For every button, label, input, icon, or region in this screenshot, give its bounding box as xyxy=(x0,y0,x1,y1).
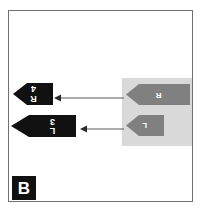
connector-arrow-bottom xyxy=(80,120,124,130)
grey-arrow-r xyxy=(126,84,190,105)
figure-panel: R L R 4 L 3 xyxy=(0,0,204,214)
black-arrow-3l xyxy=(11,115,76,137)
panel-label-b: B xyxy=(12,176,36,200)
connector-arrow-top xyxy=(54,89,124,99)
black-arrow-r4 xyxy=(13,83,53,105)
grey-arrow-l xyxy=(126,115,164,136)
